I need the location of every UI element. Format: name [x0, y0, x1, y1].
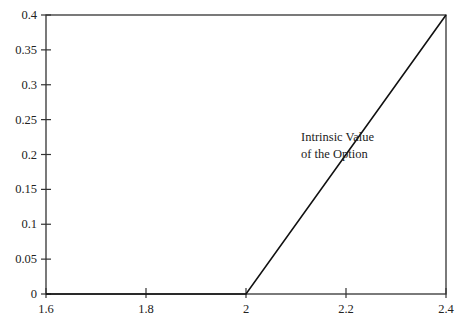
y-tick-label: 0.3 [21, 78, 37, 92]
series-intrinsic-value [46, 15, 446, 294]
annotation-intrinsic-value: Intrinsic Valueof the Option [301, 130, 374, 161]
y-tick-label: 0.1 [21, 217, 37, 231]
plot-frame [46, 15, 446, 294]
y-tick-label: 0.2 [21, 148, 37, 162]
x-tick-label: 1.6 [38, 302, 54, 316]
y-tick-label: 0.05 [15, 252, 37, 266]
x-tick-label: 2.2 [338, 302, 354, 316]
y-tick-label: 0.35 [15, 43, 37, 57]
x-tick-label: 2.4 [438, 302, 454, 316]
annotation-line-2: of the Option [301, 147, 368, 161]
x-tick-label: 2 [243, 302, 249, 316]
y-tick-label: 0.15 [15, 182, 37, 196]
y-tick-label: 0.4 [21, 8, 37, 22]
x-tick-label: 1.8 [138, 302, 154, 316]
chart: 00.050.10.150.20.250.30.350.4 1.61.822.2… [0, 0, 466, 327]
annotation-line-1: Intrinsic Value [301, 130, 374, 144]
series-line [46, 15, 446, 294]
y-tick-label: 0 [31, 287, 37, 301]
y-tick-label: 0.25 [15, 113, 37, 127]
plot-border [46, 15, 446, 294]
